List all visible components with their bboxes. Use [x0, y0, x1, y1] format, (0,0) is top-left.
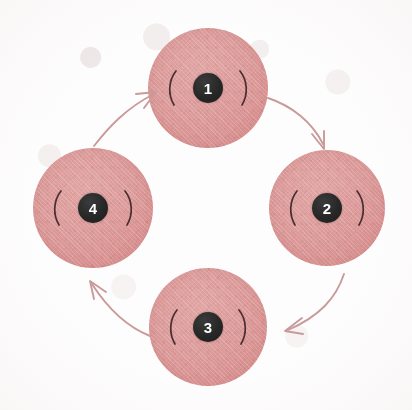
right-parenthesis-arc-icon	[121, 188, 137, 228]
cycle-node-1-badge: 1	[193, 73, 223, 103]
left-parenthesis-arc-icon	[285, 188, 301, 228]
left-parenthesis-arc-icon	[49, 188, 65, 228]
cycle-node-3-label: 3	[204, 320, 212, 335]
cycle-node-4-content: 4	[33, 148, 153, 268]
cycle-node-2-badge: 2	[312, 193, 342, 223]
arrow-3-to-4	[78, 272, 158, 342]
cycle-node-1-label: 1	[204, 81, 212, 96]
cycle-node-3[interactable]: 3	[149, 268, 267, 386]
cycle-node-3-content: 3	[149, 268, 267, 386]
cycle-node-1[interactable]: 1	[148, 28, 268, 148]
cycle-node-2-content: 2	[269, 150, 385, 266]
cycle-node-4-label: 4	[89, 201, 97, 216]
cycle-node-1-content: 1	[148, 28, 268, 148]
cycle-node-4[interactable]: 4	[33, 148, 153, 268]
cycle-node-2-label: 2	[323, 201, 331, 216]
cycle-node-2[interactable]: 2	[269, 150, 385, 266]
cycle-node-4-badge: 4	[78, 193, 108, 223]
arrow-2-to-3	[270, 268, 350, 338]
left-parenthesis-arc-icon	[165, 307, 181, 347]
right-parenthesis-arc-icon	[235, 307, 251, 347]
cycle-node-3-badge: 3	[193, 312, 223, 342]
right-parenthesis-arc-icon	[236, 68, 252, 108]
right-parenthesis-arc-icon	[353, 188, 369, 228]
cycle-diagram-canvas: 1 2 3	[0, 0, 412, 410]
left-parenthesis-arc-icon	[164, 68, 180, 108]
